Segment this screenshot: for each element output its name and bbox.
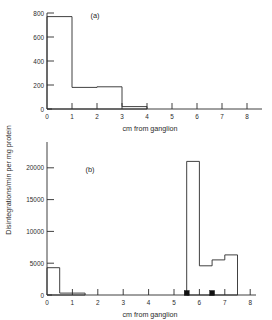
- panel-a-xtick-4: 4: [145, 113, 149, 120]
- panel-a-label: (a): [90, 11, 99, 20]
- panel-a-xtick-3: 3: [120, 113, 124, 120]
- panel-b-xtick-6: 6: [198, 299, 202, 306]
- figure-background: [0, 0, 272, 320]
- panel-b-xtick-1: 1: [71, 299, 75, 306]
- panel-a-xtick-1: 1: [70, 113, 74, 120]
- panel-a-ytick-600: 600: [33, 34, 44, 41]
- panel-b-xtick-3: 3: [121, 299, 125, 306]
- panel-a-x-axis-label: cm from ganglion: [122, 124, 177, 133]
- panel-b-xtick-5: 5: [172, 299, 176, 306]
- panel-a-xtick-5: 5: [170, 113, 174, 120]
- panel-b-xtick-4: 4: [147, 299, 151, 306]
- panel-a-xtick-2: 2: [95, 113, 99, 120]
- two-panel-bar-chart-figure: Disintegrations/min per mg protein (a) 0…: [0, 0, 272, 320]
- panel-b-xtick-7: 7: [223, 299, 227, 306]
- shared-y-axis-label: Disintegrations/min per mg protein: [4, 125, 13, 234]
- black-square-marker-5-5: [184, 291, 189, 296]
- panel-a-ytick-400: 400: [33, 58, 44, 65]
- panel-a-xtick-0: 0: [45, 113, 49, 120]
- panel-a-ytick-800: 800: [33, 10, 44, 17]
- panel-b-ytick-10000: 10000: [26, 228, 44, 235]
- panel-b-ytick-5000: 5000: [30, 260, 45, 267]
- panel-b-xtick-8: 8: [248, 299, 252, 306]
- panel-a-xtick-6: 6: [195, 113, 199, 120]
- panel-b-label: (b): [85, 165, 94, 174]
- panel-a-xtick-7: 7: [220, 113, 224, 120]
- panel-b-xtick-0: 0: [45, 299, 49, 306]
- panel-b-x-axis-label: cm from ganglion: [122, 310, 177, 319]
- black-square-marker-6-5: [210, 291, 215, 296]
- panel-a-ytick-0: 0: [40, 106, 44, 113]
- panel-b-ytick-15000: 15000: [26, 196, 44, 203]
- panel-a-ytick-200: 200: [33, 82, 44, 89]
- panel-b-xtick-2: 2: [96, 299, 100, 306]
- panel-a-xtick-8: 8: [245, 113, 249, 120]
- panel-b-ytick-0: 0: [40, 292, 44, 299]
- panel-b-ytick-20000: 20000: [26, 164, 44, 171]
